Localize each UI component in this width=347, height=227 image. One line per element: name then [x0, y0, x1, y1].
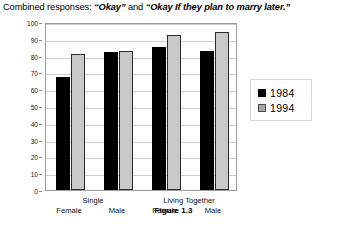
bars-layer	[46, 24, 236, 190]
y-axis-tick-label: 30	[31, 137, 38, 144]
y-axis-tick-mark	[39, 73, 42, 74]
y-axis-tick-label: 80	[31, 53, 38, 60]
y-axis-tick-mark	[39, 57, 42, 58]
legend-item-1994: 1994	[258, 100, 305, 115]
figure-caption: Figure 1.3	[0, 206, 347, 215]
x-axis-group-label: Living Together	[144, 196, 234, 205]
y-axis-tick-label: 20	[31, 154, 38, 161]
bar-1994-single-female	[71, 54, 85, 190]
chart-legend: 19841994	[250, 79, 312, 121]
y-axis-tick-mark	[39, 23, 42, 24]
y-axis-tick-mark	[39, 124, 42, 125]
y-axis-tick-mark	[39, 107, 42, 108]
title-prefix: Combined responses:	[3, 2, 92, 12]
y-axis-tick-label: 50	[31, 104, 38, 111]
y-axis-tick-label: 70	[31, 70, 38, 77]
title-quote-two: “Okay If they plan to marry later.”	[146, 2, 290, 12]
y-axis-tick-mark	[39, 191, 42, 192]
y-axis: 0102030405060708090100	[0, 23, 42, 191]
y-axis-tick-mark	[39, 40, 42, 41]
y-axis-tick-mark	[39, 174, 42, 175]
bar-1984-single-male	[104, 52, 118, 190]
bar-1994-living-together-male	[215, 32, 229, 190]
bar-1994-living-together-female	[167, 35, 181, 190]
plot-area	[45, 23, 237, 191]
x-axis-group-label: Single	[48, 196, 138, 205]
y-axis-tick-label: 90	[31, 36, 38, 43]
bar-1984-living-together-male	[200, 51, 214, 190]
title-conjunction: and	[128, 2, 143, 12]
y-axis-tick-mark	[39, 141, 42, 142]
legend-swatch-icon	[258, 89, 266, 97]
legend-swatch-icon	[258, 104, 266, 112]
y-axis-tick-label: 60	[31, 87, 38, 94]
y-axis-tick-mark	[39, 90, 42, 91]
y-axis-tick-label: 100	[27, 20, 38, 27]
legend-label: 1994	[270, 102, 295, 114]
legend-label: 1984	[270, 87, 295, 99]
bar-1994-single-male	[119, 51, 133, 190]
y-axis-tick-label: 40	[31, 120, 38, 127]
title-quote-one: “Okay”	[94, 2, 125, 12]
y-axis-tick-mark	[39, 157, 42, 158]
bar-1984-single-female	[56, 77, 70, 190]
legend-item-1984: 1984	[258, 85, 305, 100]
figure-title: Combined responses: “Okay” and “Okay If …	[3, 1, 347, 13]
y-axis-tick-label: 10	[31, 171, 38, 178]
bar-1984-living-together-female	[152, 47, 166, 190]
bar-chart: 0102030405060708090100 FemaleMaleFemaleM…	[0, 18, 347, 200]
